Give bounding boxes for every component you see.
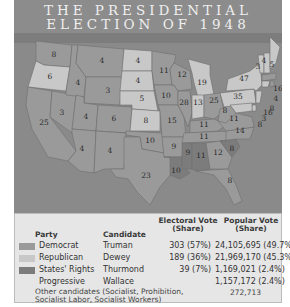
- svg-text:4: 4: [136, 76, 141, 85]
- state-wy: [84, 77, 122, 105]
- legend-row-states-rights: States' Rights Thurmond 39 (7%) 1,169,02…: [15, 264, 283, 276]
- state-fl: [196, 169, 242, 205]
- svg-text:16: 16: [273, 84, 282, 93]
- electoral-vote: 39 (7%): [155, 264, 211, 276]
- popular-vote: 1,157,172 (2.4%): [215, 276, 281, 288]
- republican-swatch: [19, 255, 35, 262]
- svg-text:8: 8: [52, 50, 57, 59]
- svg-text:11: 11: [199, 132, 209, 141]
- us-map-svg: 8 6 25 3 4 4 3 4 6 4 4 4 4 5 8 10 23 11 …: [14, 33, 282, 213]
- svg-text:8: 8: [144, 116, 149, 125]
- us-election-map: 8 6 25 3 4 4 3 4 6 4 4 4 4 5 8 10 23 11 …: [14, 33, 282, 213]
- candidate-name: Dewey: [103, 252, 130, 264]
- svg-text:6: 6: [112, 114, 117, 123]
- svg-text:25: 25: [209, 96, 219, 105]
- svg-text:6: 6: [48, 72, 53, 81]
- svg-text:8: 8: [258, 120, 263, 129]
- header-popular-vote: Popular Vote (Share): [221, 217, 281, 233]
- svg-text:47: 47: [239, 74, 249, 83]
- svg-text:8: 8: [223, 106, 228, 115]
- svg-text:11: 11: [199, 120, 209, 129]
- svg-text:11: 11: [196, 151, 206, 160]
- title-line-2: ELECTION OF 1948: [14, 17, 282, 31]
- party-name: Democrat: [39, 240, 79, 252]
- svg-text:3: 3: [106, 86, 111, 95]
- candidate-name: Truman: [103, 240, 133, 252]
- svg-text:8: 8: [228, 176, 233, 185]
- svg-text:11: 11: [159, 66, 169, 75]
- header-candidate: Candidate: [103, 231, 146, 239]
- svg-text:13: 13: [193, 98, 203, 107]
- svg-text:15: 15: [167, 116, 177, 125]
- svg-text:28: 28: [179, 98, 189, 107]
- state-ma: [262, 73, 276, 81]
- svg-text:5: 5: [270, 60, 275, 69]
- svg-text:14: 14: [235, 126, 245, 135]
- svg-text:4: 4: [274, 94, 279, 103]
- svg-text:4: 4: [136, 56, 141, 65]
- header-electoral-vote: Electoral Vote (Share): [155, 217, 221, 233]
- svg-text:11: 11: [229, 114, 239, 123]
- svg-text:9: 9: [172, 142, 177, 151]
- svg-text:5: 5: [140, 94, 145, 103]
- svg-text:10: 10: [145, 136, 155, 145]
- svg-text:12: 12: [177, 70, 187, 79]
- state-de: [252, 105, 256, 111]
- legend-row-democrat: Democrat Truman 303 (57%) 24,105,695 (49…: [15, 240, 283, 252]
- svg-text:3: 3: [60, 108, 65, 117]
- popular-vote: 24,105,695 (49.7%): [215, 240, 281, 252]
- svg-text:3: 3: [256, 62, 261, 71]
- title-line-1: THE PRESIDENTIAL: [14, 3, 282, 17]
- state-ct: [262, 81, 270, 87]
- svg-text:4: 4: [84, 112, 89, 121]
- svg-text:8: 8: [230, 144, 235, 153]
- svg-text:25: 25: [39, 118, 49, 127]
- candidate-name: Thurmond: [103, 264, 144, 276]
- other-candidates: Other candidates (Socialist, Prohibition…: [35, 288, 183, 304]
- svg-text:4: 4: [80, 144, 85, 153]
- electoral-vote: 303 (57%): [155, 240, 211, 252]
- other-candidates-popular-vote: 272,713: [230, 288, 261, 297]
- svg-text:35: 35: [233, 92, 243, 101]
- svg-text:9: 9: [186, 148, 191, 157]
- svg-text:4: 4: [262, 56, 267, 65]
- map-title: THE PRESIDENTIAL ELECTION OF 1948: [14, 0, 282, 33]
- svg-text:4: 4: [100, 56, 105, 65]
- democrat-swatch: [19, 243, 35, 250]
- popular-vote: 1,169,021 (2.4%): [215, 264, 281, 276]
- popular-vote: 21,969,170 (45.3%): [215, 252, 281, 264]
- legend-row-republican: Republican Dewey 189 (36%) 21,969,170 (4…: [15, 252, 283, 264]
- svg-text:23: 23: [141, 171, 151, 180]
- svg-text:4: 4: [108, 146, 113, 155]
- svg-text:10: 10: [161, 91, 171, 100]
- states-rights-swatch: [19, 267, 35, 274]
- svg-text:12: 12: [213, 148, 223, 157]
- legend-table: Party Candidate Electoral Vote (Share) P…: [14, 213, 282, 303]
- svg-text:19: 19: [197, 78, 207, 87]
- state-nj: [256, 91, 262, 103]
- svg-text:10: 10: [171, 166, 181, 175]
- party-name: Republican: [39, 252, 83, 264]
- header-party: Party: [35, 231, 58, 239]
- svg-text:4: 4: [76, 78, 81, 87]
- party-name: States' Rights: [39, 264, 94, 276]
- electoral-vote: 189 (36%): [155, 252, 211, 264]
